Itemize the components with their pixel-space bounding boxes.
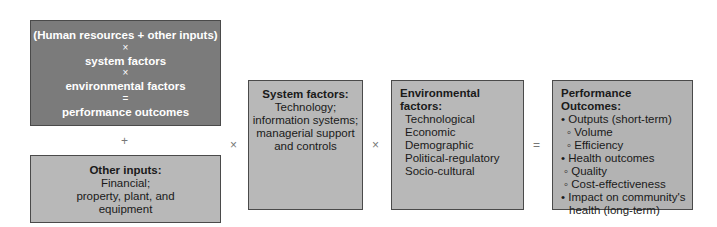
system-factors-title: System factors: bbox=[249, 88, 362, 101]
formula-operator: × bbox=[31, 42, 220, 55]
formula-operator: × bbox=[31, 67, 220, 80]
formula-line: environmental factors bbox=[31, 80, 220, 93]
outcome-bullet: • Outputs (short-term) bbox=[561, 113, 692, 126]
plus-operator: + bbox=[121, 134, 128, 148]
formula-operator: = bbox=[31, 93, 220, 106]
environmental-factors-title: Environmental factors: bbox=[400, 87, 523, 113]
formula-line: system factors bbox=[31, 55, 220, 68]
outcome-subbullet: ◦ Efficiency bbox=[561, 139, 692, 152]
outcome-subbullet: ◦ Volume bbox=[561, 126, 692, 139]
system-factors-line: and controls bbox=[249, 140, 362, 153]
outcome-bullet: • Health outcomes bbox=[561, 152, 692, 165]
other-inputs-title: Other inputs: bbox=[31, 164, 220, 177]
environmental-factor-item: Demographic bbox=[400, 139, 523, 152]
other-inputs-box: Other inputs: Financial; property, plant… bbox=[30, 155, 221, 223]
other-inputs-line: equipment bbox=[31, 203, 220, 216]
times-operator: × bbox=[230, 138, 237, 152]
outcome-bullet-continuation: health (long-term) bbox=[561, 204, 692, 217]
other-inputs-line: property, plant, and bbox=[31, 190, 220, 203]
environmental-factor-item: Economic bbox=[400, 126, 523, 139]
equals-operator: = bbox=[533, 138, 540, 152]
environmental-factor-item: Socio-cultural bbox=[400, 165, 523, 178]
environmental-factor-item: Political-regulatory bbox=[400, 152, 523, 165]
system-factors-line: managerial support bbox=[249, 127, 362, 140]
formula-line: (Human resources + other inputs) bbox=[31, 29, 220, 42]
performance-outcomes-box: Performance Outcomes: • Outputs (short-t… bbox=[552, 80, 693, 210]
formula-box: (Human resources + other inputs) × syste… bbox=[30, 20, 221, 126]
environmental-factor-item: Technological bbox=[400, 113, 523, 126]
outcome-subbullet: ◦ Quality bbox=[561, 165, 692, 178]
performance-outcomes-title: Performance Outcomes: bbox=[561, 87, 692, 113]
other-inputs-line: Financial; bbox=[31, 177, 220, 190]
system-factors-line: Technology; bbox=[249, 101, 362, 114]
environmental-factors-box: Environmental factors: Technological Eco… bbox=[391, 80, 524, 210]
system-factors-line: information systems; bbox=[249, 114, 362, 127]
system-factors-box: System factors: Technology; information … bbox=[248, 80, 363, 210]
times-operator: × bbox=[372, 138, 379, 152]
outcome-subbullet: ◦ Cost-effectiveness bbox=[561, 178, 692, 191]
outcome-bullet: • Impact on community's bbox=[561, 191, 692, 204]
formula-line: performance outcomes bbox=[31, 106, 220, 119]
